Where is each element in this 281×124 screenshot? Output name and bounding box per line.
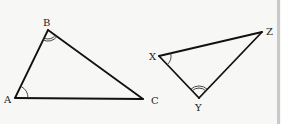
vertex-label-c: C — [151, 95, 159, 106]
angle-y-arc-inner — [192, 88, 206, 91]
vertex-label-a: A — [3, 94, 12, 105]
vertex-label-y: Y — [194, 102, 202, 113]
triangles-figure: A B C X Y Z — [0, 0, 281, 124]
diagram-canvas: A B C X Y Z — [0, 0, 281, 124]
side-yz — [199, 32, 262, 98]
side-ab — [15, 30, 48, 98]
side-xz — [159, 32, 262, 56]
page-edge-border — [277, 0, 280, 124]
triangle-xyz: X Y Z — [149, 26, 273, 113]
angle-x-arc — [167, 53, 171, 64]
vertex-label-x: X — [149, 51, 157, 62]
vertex-label-z: Z — [266, 26, 273, 37]
side-bc — [48, 30, 143, 99]
angle-a-arc — [21, 86, 28, 98]
side-xy — [159, 56, 199, 98]
side-ac — [15, 98, 143, 99]
triangle-abc: A B C — [3, 17, 159, 106]
vertex-label-b: B — [43, 17, 50, 28]
